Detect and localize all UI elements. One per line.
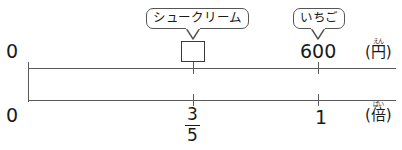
number-line-diagram: シュークリーム いちご 0 600 えん (円) 0 3 5 1 ばい (倍) (0, 0, 402, 150)
callout-choux-cream: シュークリーム (146, 8, 249, 29)
fraction-denominator: 5 (185, 127, 200, 145)
bottom-axis-value-three-fifths: 3 5 (185, 106, 200, 145)
callout-strawberry-label: いちご (300, 12, 338, 25)
answer-box-top-axis[interactable] (181, 41, 205, 62)
bottom-axis-tick-one (318, 94, 319, 106)
bottom-axis-line (28, 100, 396, 101)
callout-strawberry-pointer (310, 28, 326, 40)
bottom-axis-value-one: 1 (315, 108, 327, 127)
callout-choux-cream-pointer (185, 28, 201, 40)
callout-choux-cream-label: シュークリーム (153, 12, 242, 25)
callout-strawberry: いちご (293, 8, 345, 29)
bottom-axis-origin-label: 0 (6, 106, 18, 125)
top-axis-origin-label: 0 (6, 42, 18, 61)
top-axis-value-600: 600 (300, 42, 336, 61)
top-axis-unit-yen: えん (円) (365, 38, 392, 60)
top-axis-tick-600 (318, 62, 319, 74)
top-axis-tick-choux-cream (193, 62, 194, 74)
bottom-axis-unit-base: (倍) (365, 108, 392, 123)
axis-left-connector (28, 62, 29, 102)
top-axis-line (28, 68, 396, 69)
bottom-axis-unit-times: ばい (倍) (365, 101, 392, 123)
top-axis-unit-base: (円) (365, 45, 392, 60)
fraction-numerator: 3 (185, 106, 200, 124)
